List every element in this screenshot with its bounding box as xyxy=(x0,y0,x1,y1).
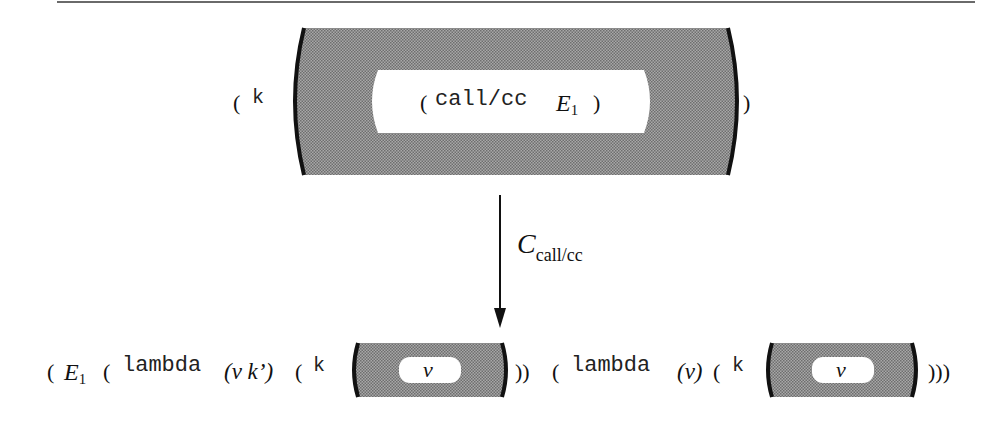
lambda1-open-paren: ( xyxy=(103,361,110,383)
k2-open-paren: ( xyxy=(713,361,720,383)
inner-close-paren: ) xyxy=(593,92,600,114)
call-cc-keyword: call/cc xyxy=(435,89,527,111)
lambda2-params: (v) xyxy=(677,360,703,383)
close1-parens: )) xyxy=(515,361,530,383)
top-k: k xyxy=(252,88,264,108)
lambda1-keyword: lambda xyxy=(122,355,201,377)
k1-symbol: k xyxy=(313,356,325,376)
hole1-value: v xyxy=(423,359,433,381)
top-open-paren: ( xyxy=(233,92,240,114)
e1-term: E1 xyxy=(556,91,578,118)
lambda2-open-paren: ( xyxy=(552,361,559,383)
bottom-open-paren: ( xyxy=(47,361,54,383)
top-close-paren: ) xyxy=(743,92,750,114)
lambda1-params: (v k’) xyxy=(224,360,273,383)
arrow-label: Ccall/cc xyxy=(517,230,583,264)
bottom-e1-term: E1 xyxy=(64,360,86,387)
k1-open-paren: ( xyxy=(295,361,302,383)
k2-symbol: k xyxy=(732,356,744,376)
hole2-value: v xyxy=(836,359,846,381)
inner-open-paren: ( xyxy=(420,92,427,114)
lambda2-keyword: lambda xyxy=(571,355,650,377)
reduction-arrow xyxy=(494,195,506,328)
close2-parens: ))) xyxy=(928,361,950,383)
